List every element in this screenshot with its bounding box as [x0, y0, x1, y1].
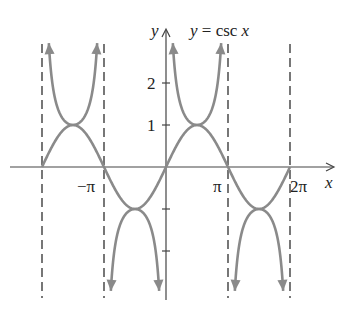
- arrowhead-icon: [91, 43, 101, 54]
- csc-branch: [235, 209, 283, 291]
- tick-label-2pi: 2π: [290, 178, 307, 195]
- arrowhead-icon: [169, 43, 179, 54]
- tick-label-2: 2: [147, 75, 156, 92]
- arrowhead-icon: [107, 280, 117, 291]
- arrowhead-icon: [277, 280, 287, 291]
- tick-label-1: 1: [147, 117, 156, 134]
- arrowhead-icon: [45, 43, 55, 54]
- arrowhead-icon: [215, 43, 225, 54]
- chart-title: y = csc x: [190, 22, 249, 39]
- x-axis-label: x: [325, 174, 333, 191]
- tick-label-pi: π: [213, 178, 222, 195]
- csc-branch: [49, 43, 97, 125]
- tick-label-neg-pi: −π: [77, 178, 95, 195]
- arrowhead-icon: [153, 280, 163, 291]
- plot-area: [0, 0, 349, 309]
- csc-branch: [111, 209, 159, 291]
- csc-branch: [173, 43, 221, 125]
- chart: y y = csc x x −π π 2π 1 2: [0, 0, 349, 309]
- arrowhead-icon: [231, 280, 241, 291]
- y-axis-label: y: [151, 22, 159, 39]
